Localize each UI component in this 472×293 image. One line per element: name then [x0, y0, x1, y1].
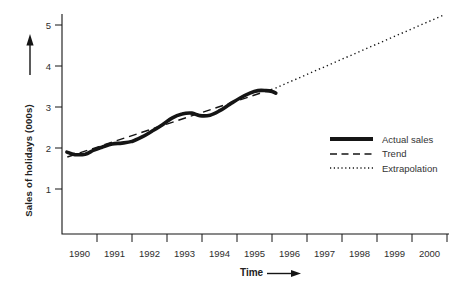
x-tick-label: 1996: [279, 248, 300, 259]
axes: [62, 14, 449, 234]
y-tick-label: 1: [46, 184, 51, 195]
x-tick-label: 1998: [349, 248, 370, 259]
series-line-extrapolation: [276, 15, 445, 88]
y-tick-label: 3: [46, 102, 51, 113]
legend-label: Extrapolation: [382, 163, 437, 174]
x-tick-label: 1995: [244, 248, 265, 259]
dotted-line-icon: [330, 165, 373, 171]
up-arrow-head-icon: [26, 34, 33, 46]
x-tick-label: 1990: [69, 248, 90, 259]
x-axis-title: Time: [240, 267, 263, 278]
solid-line-icon: [330, 136, 373, 142]
y-axis-title: Sales of holidays (000s): [23, 91, 36, 231]
legend-item-actual-sales: Actual sales: [330, 132, 437, 147]
x-tick-label: 2000: [419, 248, 440, 259]
x-tick-label: 1997: [314, 248, 335, 259]
y-tick-label: 2: [46, 143, 51, 154]
y-tick-label: 4: [46, 61, 51, 72]
x-tick-label: 1991: [104, 248, 125, 259]
legend-label: Trend: [382, 148, 406, 159]
y-tick-label: 5: [46, 20, 51, 31]
x-tick-label: 1993: [174, 248, 195, 259]
x-tick-label: 1994: [209, 248, 230, 259]
chart-figure: 1234519901991199219931994199519961997199…: [0, 0, 472, 293]
x-tick-label: 1992: [139, 248, 160, 259]
legend-item-trend: Trend: [330, 147, 437, 162]
right-arrow-head-icon: [291, 270, 301, 277]
dashed-line-icon: [330, 151, 373, 157]
legend-label: Actual sales: [382, 134, 433, 145]
legend: Actual sales Trend Extrapolation: [330, 132, 437, 176]
legend-item-extrapolation: Extrapolation: [330, 161, 437, 176]
x-tick-label: 1999: [384, 248, 405, 259]
